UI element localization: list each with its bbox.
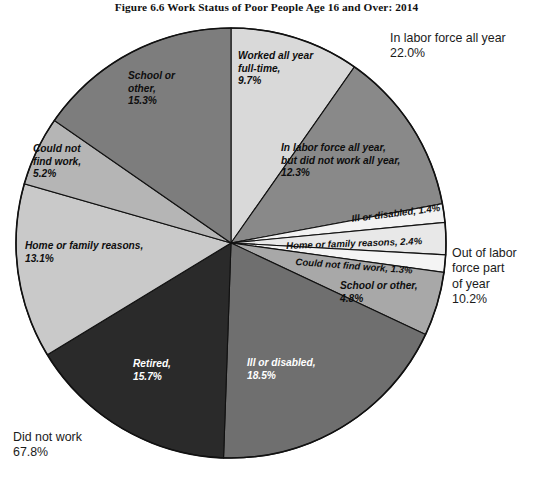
slice-label-retired: Retired, 15.7% [133,358,171,383]
slice-label-home-or-family-large: Home or family reasons, 13.1% [25,240,143,265]
outer-label-in-labor-force-all-year: In labor force all year 22.0% [390,31,506,62]
slice-label-worked-all-year-full-time: Worked all year full-time, 9.7% [238,50,313,88]
outer-label-out-of-labor-force-part-of-year: Out of labor force part of year 10.2% [452,246,517,308]
slice-label-could-not-find-work-large: Could not find work, 5.2% [33,143,81,181]
slice-label-school-or-other-small: School or other, 4.8% [340,280,418,305]
slice-label-in-labor-force-not-work-all-year: In labor force all year, but did not wor… [281,142,400,180]
outer-label-did-not-work: Did not work 67.8% [13,430,82,461]
slice-label-ill-or-disabled-large: Ill or disabled, 18.5% [247,357,316,382]
slice-label-school-or-other-large: School or other, 15.3% [128,70,175,108]
